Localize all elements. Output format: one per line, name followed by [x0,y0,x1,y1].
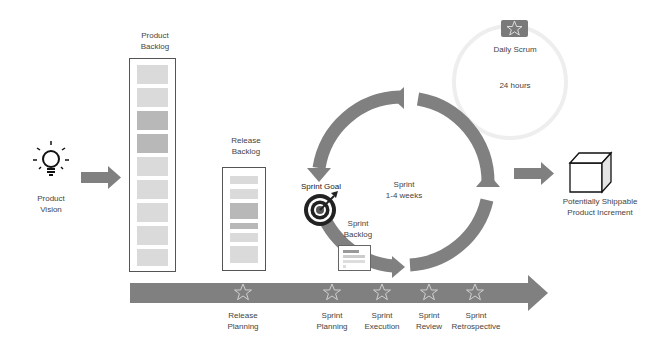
arc-bottom-right [410,200,487,265]
cube-icon [570,153,611,192]
release-backlog-label: ReleaseBacklog [226,135,266,157]
backlog-item [137,180,168,199]
backlog-item [137,203,168,222]
timeline-label-release-planning: ReleasePlanning [223,310,263,332]
arrowhead-top [392,87,404,109]
product-vision-label: ProductVision [30,193,72,215]
backlog-item [230,176,258,184]
backlog-item [137,134,168,153]
sprint-backlog-card [338,245,371,271]
backlog-item [137,88,168,107]
star-icon-daily-scrum [501,20,528,37]
backlog-item [137,226,168,245]
timeline-label-sprint-execution: SprintExecution [360,310,404,332]
arrow-vision-to-backlog [81,166,121,189]
backlog-item [137,65,168,84]
backlog-item [137,111,168,130]
sprint-backlog-label: SprintBacklog [340,218,376,240]
arrowhead-right [476,173,500,187]
arrowhead-left [307,168,331,182]
arc-top-right [418,99,488,183]
diagram-canvas [0,0,669,343]
lightbulb-icon [33,141,69,175]
backlog-item [230,246,258,263]
timeline-arrow [130,275,548,311]
timeline-label-sprint-planning: SprintPlanning [313,310,351,332]
backlog-item [230,203,258,219]
daily-scrum-label: Daily Scrum [489,44,541,55]
backlog-item [230,223,258,229]
increment-label: Potentially ShippableProduct Increment [552,196,648,218]
sprint-goal-label: Sprint Goal [295,181,347,192]
timeline-label-sprint-review: SprintReview [411,310,447,332]
backlog-item [230,233,258,242]
arrowhead-bottom [392,256,405,278]
sprint-cycle-label: Sprint1-4 weeks [382,179,426,201]
product-backlog-label: ProductBacklog [134,30,176,52]
release-backlog-list [222,167,266,271]
backlog-item [230,189,258,199]
product-backlog-list [129,58,176,272]
arc-top-left [319,97,400,168]
arrow-to-increment [514,162,554,185]
timeline-label-sprint-retrospective: SprintRetrospective [450,310,502,332]
daily-scrum-duration: 24 hours [489,80,541,91]
backlog-item [137,249,168,266]
backlog-item [137,157,168,176]
